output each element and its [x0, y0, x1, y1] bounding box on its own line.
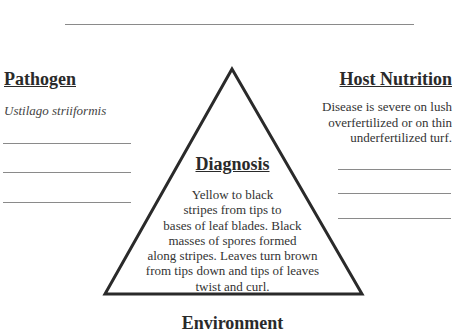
pathogen-blank-line-1: [3, 143, 131, 144]
diagnosis-line: from tips down and tips of leaves: [0, 263, 458, 278]
host-nutrition-line: underfertilized turf.: [322, 130, 452, 146]
diagnosis-heading: Diagnosis: [0, 154, 458, 175]
diagnosis-line: bases of leaf blades. Black: [0, 218, 458, 233]
diagnosis-line: Yellow to black: [0, 187, 458, 202]
pathogen-heading: Pathogen: [4, 69, 76, 90]
diagnosis-line: masses of spores formed: [0, 233, 458, 248]
diagnosis-line: twist and curl.: [0, 279, 458, 294]
host-nutrition-heading: Host Nutrition: [340, 69, 453, 90]
host-nutrition-line: Disease is severe on lush: [322, 99, 452, 115]
host-nutrition-text: Disease is severe on lush overfertilized…: [322, 99, 452, 146]
diagnosis-line: stripes from tips to: [0, 202, 458, 217]
host-nutrition-line: overfertilized or on thin: [322, 115, 452, 131]
environment-heading: Environment: [0, 313, 458, 333]
diagnosis-text: Yellow to black stripes from tips to bas…: [0, 187, 458, 294]
pathogen-value: Ustilago striiformis: [4, 103, 106, 119]
diagnosis-line: along stripes. Leaves turn brown: [0, 248, 458, 263]
